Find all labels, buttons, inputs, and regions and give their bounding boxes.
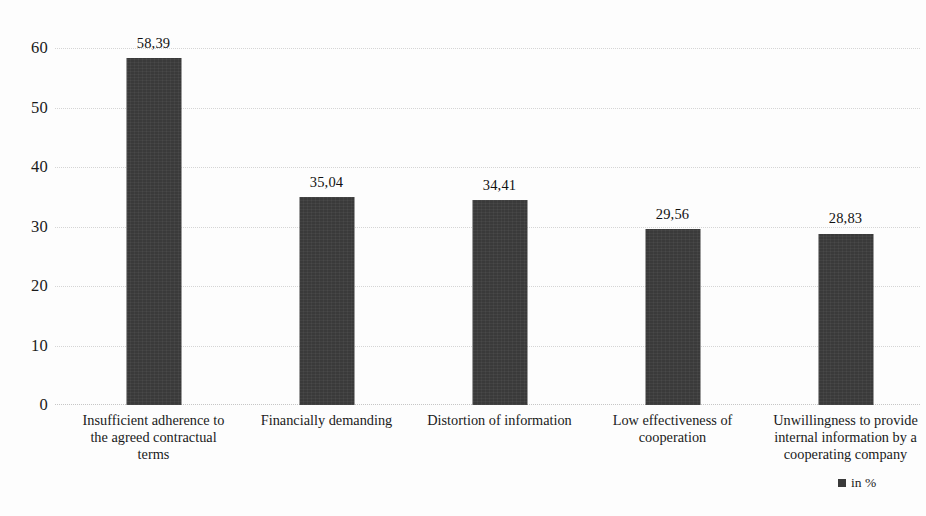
bar[interactable] (126, 58, 181, 405)
bar-value-label: 28,83 (829, 211, 863, 226)
x-axis-label-line: internal information by a (761, 429, 926, 446)
y-axis-tick-label: 30 (8, 219, 48, 236)
x-axis-label-line: cooperation (588, 429, 757, 446)
x-axis-category-label: Low effectiveness of cooperation (586, 412, 759, 446)
y-axis: 60 50 40 30 20 10 0 (0, 48, 48, 405)
legend-label: in % (851, 476, 876, 490)
plot-area: 58,39 35,04 34,41 29,56 28,83 (55, 48, 920, 405)
chart-legend: in % (838, 476, 876, 490)
x-axis-label-line: Distortion of information (415, 412, 584, 429)
y-axis-tick-label: 10 (8, 338, 48, 355)
x-axis-label-line: Financially demanding (242, 412, 411, 429)
bar-slot: 29,56 (586, 48, 759, 405)
bar-slot: 34,41 (413, 48, 586, 405)
bar-slot: 35,04 (240, 48, 413, 405)
x-axis-label-line: the agreed contractual (69, 429, 238, 446)
x-axis-category-label: Unwillingness to provide internal inform… (759, 412, 926, 463)
x-axis-category-label: Distortion of information (413, 412, 586, 429)
x-axis-label-line: Insufficient adherence to (69, 412, 238, 429)
x-axis-category-label: Insufficient adherence to the agreed con… (67, 412, 240, 463)
y-axis-tick-label: 0 (8, 397, 48, 414)
x-axis-label-line: cooperating company (761, 446, 926, 463)
bar-value-label: 58,39 (137, 36, 171, 51)
bar-value-label: 35,04 (310, 175, 344, 190)
bar[interactable] (299, 197, 354, 406)
bar-slot: 58,39 (67, 48, 240, 405)
legend-swatch-icon (838, 479, 846, 487)
bar-value-label: 34,41 (483, 178, 517, 193)
x-axis-label-line: terms (69, 446, 238, 463)
y-axis-tick-label: 20 (8, 278, 48, 295)
bar-chart: 60 50 40 30 20 10 0 58,39 35,04 34,41 (0, 0, 926, 516)
x-axis: Insufficient adherence to the agreed con… (55, 412, 920, 472)
x-axis-label-line: Low effectiveness of (588, 412, 757, 429)
y-axis-tick-label: 40 (8, 159, 48, 176)
x-axis-label-line: Unwillingness to provide (761, 412, 926, 429)
bar-slot: 28,83 (759, 48, 926, 405)
x-axis-category-label: Financially demanding (240, 412, 413, 429)
bar[interactable] (818, 234, 873, 406)
bar[interactable] (472, 200, 527, 405)
bar-value-label: 29,56 (656, 207, 690, 222)
bar[interactable] (645, 229, 700, 405)
y-axis-tick-label: 50 (8, 100, 48, 117)
y-axis-tick-label: 60 (8, 40, 48, 57)
